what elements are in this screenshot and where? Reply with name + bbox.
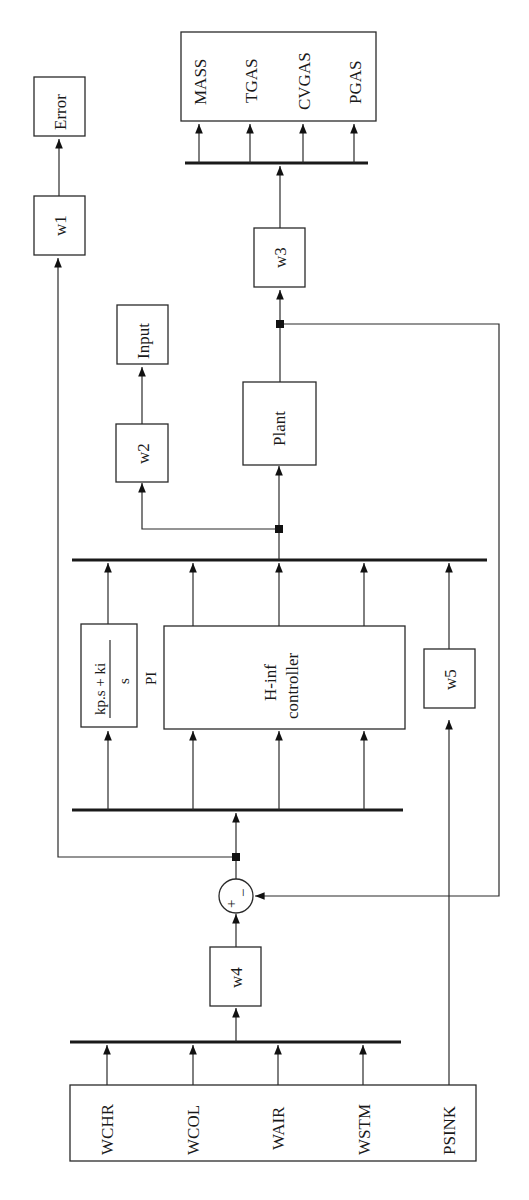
input-label-wchr: WCHR <box>98 1103 117 1155</box>
svg-text:H-inf: H-inf <box>261 664 280 701</box>
output-label-tgas: TGAS <box>242 59 261 103</box>
w2-block: w2 <box>116 424 168 482</box>
svg-text:Input: Input <box>134 323 153 359</box>
input-label-wcol: WCOL <box>184 1105 203 1155</box>
input-block: Input <box>117 305 168 364</box>
error-branch-node <box>232 853 240 861</box>
output-label-mass: MASS <box>191 59 210 105</box>
svg-text:w4: w4 <box>227 967 246 988</box>
svg-text:+: + <box>223 900 239 908</box>
w4-block: w4 <box>210 947 261 1006</box>
svg-text:w1: w1 <box>51 215 70 236</box>
outputs-block: MASS TGAS CVGAS PGAS <box>181 32 376 121</box>
w3-block: w3 <box>254 228 305 287</box>
svg-text:Error: Error <box>51 94 70 130</box>
output-branch-node <box>276 320 284 328</box>
svg-text:w5: w5 <box>441 669 460 690</box>
pi-label: PI <box>143 672 159 685</box>
block-diagram: WCHR WCOL WAIR WSTM PSINK w4 + − w1 Erro… <box>0 0 529 1200</box>
input-label-psink: PSINK <box>440 1105 459 1155</box>
input-label-wstm: WSTM <box>355 1104 374 1155</box>
error-block: Error <box>34 77 85 136</box>
svg-text:w3: w3 <box>271 247 290 268</box>
hinf-controller-block: H-inf controller <box>164 626 405 729</box>
svg-text:controller: controller <box>283 653 302 719</box>
w1-block: w1 <box>34 196 85 255</box>
pi-denominator: s <box>116 678 132 684</box>
svg-text:Plant: Plant <box>270 411 289 446</box>
pi-controller-block: kp.s + ki s PI <box>81 624 159 727</box>
plant-block: Plant <box>243 382 316 465</box>
pi-numerator: kp.s + ki <box>92 663 108 715</box>
w5-block: w5 <box>424 649 475 708</box>
summing-junction: + − <box>219 879 253 913</box>
svg-text:−: − <box>235 889 251 897</box>
output-label-cvgas: CVGAS <box>295 52 314 110</box>
input-arrows <box>107 1045 363 1085</box>
inputs-block: WCHR WCOL WAIR WSTM PSINK <box>70 1085 476 1161</box>
input-branch-node <box>275 525 283 533</box>
output-label-pgas: PGAS <box>346 61 365 104</box>
svg-text:w2: w2 <box>134 443 153 464</box>
input-label-wair: WAIR <box>269 1106 288 1150</box>
